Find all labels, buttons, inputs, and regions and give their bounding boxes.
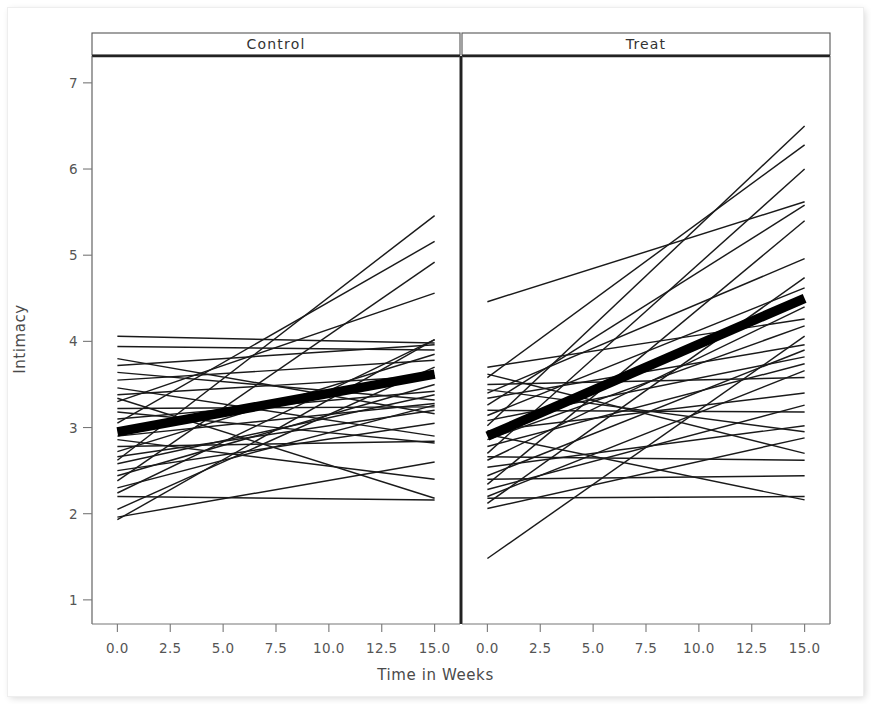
figure-container: 1234567 0.02.55.07.510.012.515.00.02.55.… [0,0,871,704]
subject-line [487,434,804,499]
subject-lines-treat [487,126,804,559]
y-tick-label: 7 [48,75,78,91]
x-axis-title: Time in Weeks [0,666,871,684]
subject-line [487,457,804,460]
subject-line [487,496,804,498]
y-axis-title: Intimacy [11,279,29,399]
x-tick-label: 2.5 [159,640,182,656]
mean-line-treat [487,298,804,436]
subject-line [487,426,804,467]
x-tick-label: 10.0 [313,640,345,656]
subject-lines-control [117,216,434,520]
subject-line [117,496,434,499]
mean-line-control [117,374,434,432]
x-tick-label: 7.5 [265,640,288,656]
x-tick-label: 0.0 [106,640,129,656]
subject-line [487,205,804,405]
panel-control [92,33,460,632]
y-tick-label: 4 [48,333,78,349]
x-tick-label: 12.5 [366,640,398,656]
y-tick-label: 3 [48,420,78,436]
x-tick-label: 10.0 [683,640,715,656]
x-tick-label: 5.0 [212,640,235,656]
x-tick-label: 7.5 [635,640,658,656]
x-tick-label: 12.5 [736,640,768,656]
y-tick-label: 1 [48,592,78,608]
y-tick-label: 2 [48,506,78,522]
subject-line [117,440,434,480]
y-axis-tick-labels: 1234567 [48,0,78,704]
strip-label-control: Control [246,36,305,52]
y-tick-label: 5 [48,247,78,263]
x-tick-label: 2.5 [529,640,552,656]
x-tick-label: 0.0 [476,640,499,656]
subject-line [487,202,804,302]
trellis-plot-canvas [0,0,871,704]
strip-label-treat: Treat [626,36,667,52]
x-tick-label: 5.0 [582,640,605,656]
panel-treat [462,33,830,632]
x-tick-label: 15.0 [419,640,451,656]
y-tick-label: 6 [48,161,78,177]
x-tick-label: 15.0 [789,640,821,656]
